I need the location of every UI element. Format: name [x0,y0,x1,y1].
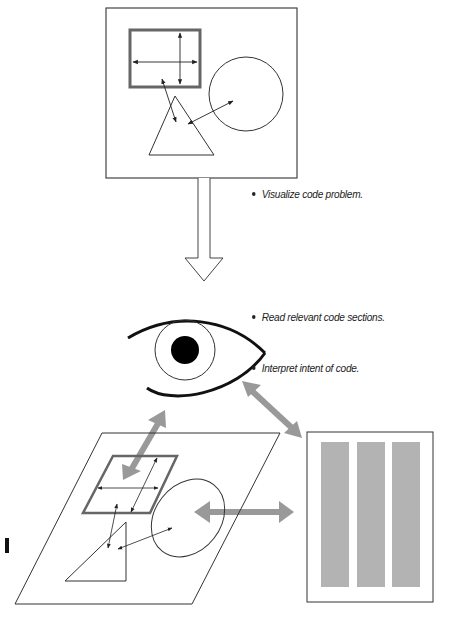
model-to-code-arrow [194,501,294,523]
eye-to-code-arrow [242,381,302,438]
link-arrow [162,79,176,122]
triangle-shape [65,522,126,581]
mental-model-plane [15,433,280,604]
link-arrow [108,504,117,548]
eye-to-model-arrow [122,410,166,480]
down-arrow-icon [185,178,223,281]
bullet-dot [252,315,256,319]
bullet-dot [252,192,256,196]
code-column [357,442,385,587]
diagram-canvas [0,0,454,629]
margin-marker [5,538,9,553]
bullet-read: Read relevant code sections. [252,311,385,323]
mental-model-panel [106,8,297,178]
rectangle-shape [130,30,200,87]
circle-shape [209,57,283,131]
ellipse-shape [136,465,240,572]
code-page [307,432,433,602]
code-column [321,442,349,587]
rectangle-shape [83,456,177,513]
triangle-shape [149,96,214,155]
code-column [392,442,420,587]
bullet-visualize: Visualize code problem. [252,188,363,200]
bullet-interpret: Interpret intent of code. [252,362,359,374]
bullet-dot [252,366,256,370]
